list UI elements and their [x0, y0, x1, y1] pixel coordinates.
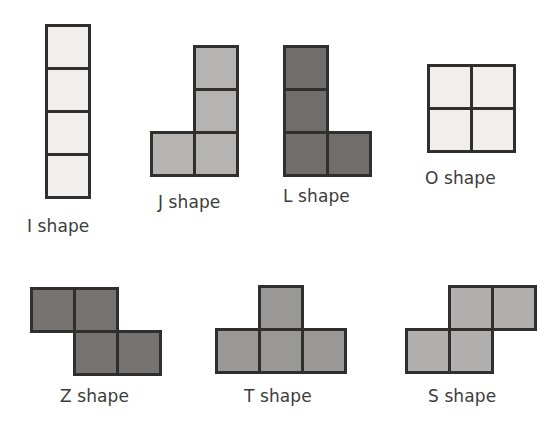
z-shape-cell: [73, 330, 119, 376]
l-shape: [283, 45, 369, 174]
l-shape-cell: [283, 131, 329, 177]
z-shape-label: Z shape: [60, 388, 129, 405]
i-shape-cell: [45, 153, 91, 199]
j-shape-cell: [193, 45, 239, 91]
s-shape-cell: [448, 328, 494, 374]
t-shape-label: T shape: [244, 388, 312, 405]
z-shape-cell: [116, 330, 162, 376]
o-shape-cell: [470, 64, 516, 110]
j-shape: [150, 45, 236, 174]
s-shape: [405, 285, 534, 371]
o-shape-label: O shape: [425, 170, 496, 187]
s-shape-cell: [448, 285, 494, 331]
t-shape-cell: [215, 328, 261, 374]
j-shape-cell: [193, 88, 239, 134]
j-shape-cell: [150, 131, 196, 177]
o-shape-cell: [427, 64, 473, 110]
i-shape-label: I shape: [27, 218, 89, 235]
z-shape-cell: [30, 287, 76, 333]
z-shape-cell: [73, 287, 119, 333]
o-shape: [427, 64, 513, 150]
t-shape: [215, 285, 344, 371]
t-shape-cell: [258, 328, 304, 374]
z-shape: [30, 287, 159, 373]
t-shape-cell: [301, 328, 347, 374]
i-shape-cell: [45, 67, 91, 113]
i-shape: [45, 24, 88, 196]
s-shape-cell: [405, 328, 451, 374]
i-shape-cell: [45, 24, 91, 70]
i-shape-cell: [45, 110, 91, 156]
l-shape-cell: [283, 45, 329, 91]
t-shape-cell: [258, 285, 304, 331]
tetromino-figure: I shapeJ shapeL shapeO shapeZ shapeT sha…: [0, 0, 560, 435]
o-shape-cell: [470, 107, 516, 153]
o-shape-cell: [427, 107, 473, 153]
s-shape-label: S shape: [428, 388, 496, 405]
l-shape-cell: [326, 131, 372, 177]
l-shape-cell: [283, 88, 329, 134]
l-shape-label: L shape: [283, 188, 350, 205]
j-shape-label: J shape: [158, 194, 220, 211]
j-shape-cell: [193, 131, 239, 177]
s-shape-cell: [491, 285, 537, 331]
